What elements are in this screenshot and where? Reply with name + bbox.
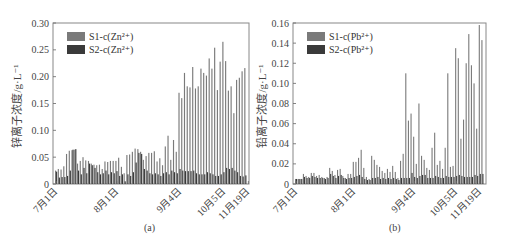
- y-tick-label: 0.10: [272, 78, 290, 89]
- bar-s1: [429, 170, 430, 184]
- bar-s1: [107, 162, 108, 184]
- bar-s1: [371, 156, 372, 184]
- bar-s1: [151, 153, 152, 184]
- y-tick-label: 0.30: [32, 18, 50, 29]
- bar-s1: [348, 174, 349, 184]
- bar-s2: [226, 168, 227, 184]
- bar-s2: [105, 171, 106, 184]
- bar-s1: [471, 65, 472, 184]
- bar-s2: [119, 176, 120, 184]
- bar-s2: [67, 176, 68, 184]
- bar-s1: [424, 160, 425, 184]
- bar-s2: [201, 174, 202, 184]
- bar-s1: [167, 136, 168, 184]
- bar-s2: [171, 171, 172, 184]
- bar-s1: [159, 158, 160, 184]
- bar-s1: [198, 86, 199, 184]
- caption-a: (a): [144, 222, 155, 233]
- bar-s2: [312, 176, 313, 184]
- bar-s2: [188, 171, 189, 184]
- bar-s1: [146, 156, 147, 184]
- bar-s2: [160, 176, 161, 184]
- bar-s1: [421, 156, 422, 184]
- bar-s1: [121, 167, 122, 184]
- bar-s1: [397, 178, 398, 184]
- y-tick-label: 0: [284, 179, 289, 190]
- bar-s1: [450, 167, 451, 184]
- x-tick-label: 8月1日: [91, 186, 120, 215]
- bar-s2: [196, 173, 197, 184]
- bar-s2: [443, 178, 444, 184]
- bar-s1: [63, 166, 64, 184]
- bar-s1: [189, 87, 190, 184]
- bar-s1: [345, 178, 346, 184]
- bar-s2: [245, 175, 246, 184]
- bar-s1: [71, 150, 72, 184]
- bar-s1: [173, 140, 174, 184]
- bar-s2: [467, 177, 468, 184]
- bar-s2: [419, 176, 420, 184]
- bar-s2: [152, 174, 153, 184]
- bar-s1: [135, 149, 136, 184]
- bar-s1: [102, 169, 103, 184]
- bar-s2: [97, 172, 98, 184]
- bar-s1: [211, 69, 212, 184]
- y-tick-label: 0.04: [272, 138, 290, 149]
- bar-s2: [299, 179, 300, 184]
- bar-s1: [418, 104, 419, 185]
- bar-s1: [88, 161, 89, 184]
- bar-s1: [369, 179, 370, 184]
- bar-s1: [481, 40, 482, 184]
- bar-s2: [114, 173, 115, 184]
- bar-s1: [220, 62, 221, 184]
- bar-s2: [163, 173, 164, 184]
- bar-s2: [141, 154, 142, 184]
- bar-s2: [348, 178, 349, 184]
- bar-s1: [332, 171, 333, 184]
- bar-s1: [66, 154, 67, 184]
- bar-s1: [460, 139, 461, 184]
- bar-s2: [333, 176, 334, 184]
- panel-b: 00.020.040.060.080.100.120.140.167月1日8月1…: [253, 0, 506, 248]
- bar-s2: [155, 173, 156, 184]
- bar-s2: [362, 177, 363, 184]
- bar-s2: [127, 174, 128, 184]
- bar-s2: [149, 173, 150, 184]
- bar-s1: [170, 160, 171, 184]
- bar-s1: [206, 76, 207, 184]
- bar-s2: [472, 177, 473, 184]
- bar-s2: [144, 169, 145, 184]
- bar-s2: [72, 150, 73, 184]
- bar-s2: [364, 179, 365, 184]
- bar-s2: [388, 178, 389, 184]
- bar-s2: [464, 177, 465, 184]
- bar-s1: [453, 166, 454, 184]
- bar-s1: [408, 121, 409, 184]
- bar-s1: [366, 177, 367, 184]
- bar-s1: [225, 61, 226, 184]
- bar-s1: [411, 114, 412, 184]
- bar-s1: [132, 152, 133, 184]
- bar-s2: [335, 178, 336, 184]
- bar-s1: [154, 151, 155, 184]
- legend-swatch: [307, 45, 325, 54]
- bar-s2: [62, 177, 63, 184]
- bar-s2: [122, 174, 123, 184]
- bar-s2: [92, 165, 93, 184]
- bar-s1: [74, 150, 75, 184]
- bar-s1: [379, 167, 380, 184]
- x-tick-label: 9月4日: [389, 186, 418, 215]
- bar-s2: [215, 176, 216, 184]
- bar-s1: [203, 73, 204, 184]
- bar-s1: [192, 67, 193, 184]
- y-tick-label: 0.16: [272, 18, 290, 29]
- bar-s1: [384, 173, 385, 184]
- bar-s1: [468, 34, 469, 184]
- y-tick-label: 0.25: [32, 44, 50, 55]
- bar-s2: [398, 180, 399, 184]
- bar-s1: [442, 169, 443, 184]
- bar-s2: [81, 174, 82, 184]
- bar-s2: [234, 171, 235, 184]
- bar-s1: [93, 165, 94, 184]
- bar-s2: [396, 179, 397, 184]
